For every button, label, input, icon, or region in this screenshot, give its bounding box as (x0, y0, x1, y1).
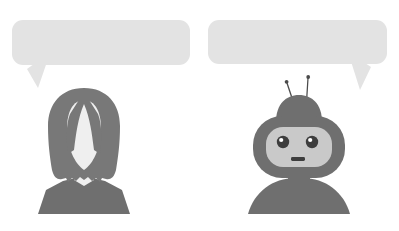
robot-eye-left-highlight (279, 138, 283, 142)
conversation-illustration: Woman avatar with long hair (0, 0, 399, 231)
robot-speech-bubble-body (208, 20, 387, 64)
robot-eye-right-highlight (308, 138, 312, 142)
robot-mouth (291, 157, 305, 161)
robot-eye-left-iris (277, 136, 289, 148)
robot-eye-right (306, 136, 318, 148)
antenna-right-tip-icon (306, 75, 310, 79)
robot-eye-right-iris (306, 136, 318, 148)
robot-eye-left (277, 136, 289, 148)
antenna-left-tip-icon (285, 80, 289, 84)
person-speech-bubble-body (12, 20, 190, 65)
illustration-canvas: Woman avatar with long hair (0, 0, 399, 231)
